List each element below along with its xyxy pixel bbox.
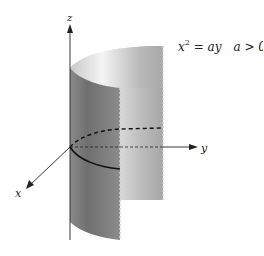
x-axis-arrowhead xyxy=(26,180,34,189)
equation-condition: a > 0 xyxy=(234,40,264,54)
surface-front-panel xyxy=(70,68,120,240)
x-axis xyxy=(30,147,70,185)
z-axis-label: z xyxy=(66,12,73,23)
equation-rhs: ay xyxy=(208,40,222,54)
equation-lhs-var: x xyxy=(178,40,185,54)
z-axis-arrowhead xyxy=(67,24,73,33)
x-axis-label: x xyxy=(15,187,22,200)
surface-right-panel xyxy=(120,88,163,200)
y-axis-arrowhead xyxy=(189,144,198,150)
equation-label: x2 = aya > 0 xyxy=(178,40,263,54)
parabolic-cylinder-diagram: z y x xyxy=(0,0,263,256)
y-axis-label: y xyxy=(200,142,208,155)
equation-equals: = xyxy=(190,40,208,54)
